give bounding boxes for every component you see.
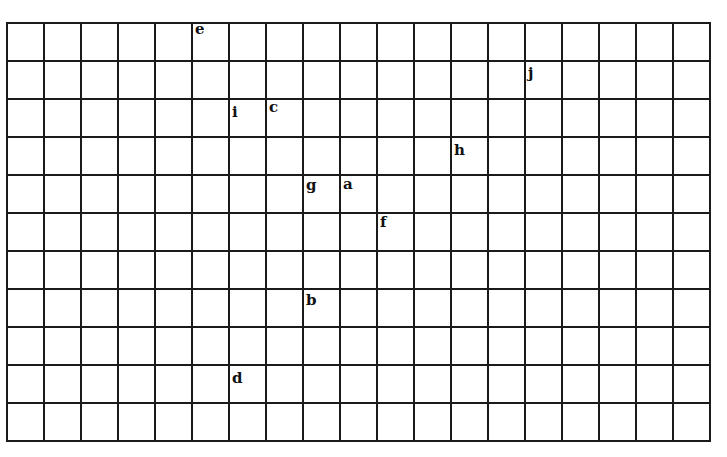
grid-vertical-line bbox=[302, 22, 304, 440]
grid-vertical-line bbox=[450, 22, 452, 440]
grid-horizontal-line bbox=[6, 22, 711, 24]
grid-vertical-line bbox=[339, 22, 341, 440]
grid-vertical-line bbox=[561, 22, 563, 440]
grid-letter-i: i bbox=[232, 105, 238, 120]
grid-horizontal-line bbox=[6, 364, 711, 366]
grid-vertical-line bbox=[154, 22, 156, 440]
grid-horizontal-line bbox=[6, 174, 711, 176]
grid-letter-g: g bbox=[306, 178, 317, 193]
grid-vertical-line bbox=[6, 22, 8, 440]
grid-letter-h: h bbox=[454, 143, 465, 158]
grid-vertical-line bbox=[709, 22, 711, 440]
grid-horizontal-line bbox=[6, 60, 711, 62]
grid-vertical-line bbox=[413, 22, 415, 440]
grid-vertical-line bbox=[265, 22, 267, 440]
grid-letter-a: a bbox=[343, 177, 353, 192]
grid-horizontal-line bbox=[6, 440, 711, 442]
grid-vertical-line bbox=[191, 22, 193, 440]
grid-letter-j: j bbox=[528, 66, 533, 81]
grid-vertical-line bbox=[487, 22, 489, 440]
grid-horizontal-line bbox=[6, 98, 711, 100]
grid-vertical-line bbox=[80, 22, 82, 440]
grid-letter-c: c bbox=[269, 100, 278, 115]
grid-horizontal-line bbox=[6, 288, 711, 290]
grid-vertical-line bbox=[43, 22, 45, 440]
grid-letter-f: f bbox=[380, 215, 386, 230]
grid-vertical-line bbox=[117, 22, 119, 440]
grid-vertical-line bbox=[376, 22, 378, 440]
grid-horizontal-line bbox=[6, 250, 711, 252]
grid-letter-d: d bbox=[232, 371, 243, 386]
grid-letter-b: b bbox=[306, 293, 317, 308]
grid-vertical-line bbox=[524, 22, 526, 440]
grid-horizontal-line bbox=[6, 212, 711, 214]
grid-horizontal-line bbox=[6, 136, 711, 138]
grid-horizontal-line bbox=[6, 326, 711, 328]
letter-grid: ejichgafbd bbox=[6, 22, 709, 440]
grid-vertical-line bbox=[672, 22, 674, 440]
grid-vertical-line bbox=[635, 22, 637, 440]
grid-vertical-line bbox=[598, 22, 600, 440]
grid-vertical-line bbox=[228, 22, 230, 440]
grid-horizontal-line bbox=[6, 402, 711, 404]
grid-letter-e: e bbox=[195, 22, 205, 37]
